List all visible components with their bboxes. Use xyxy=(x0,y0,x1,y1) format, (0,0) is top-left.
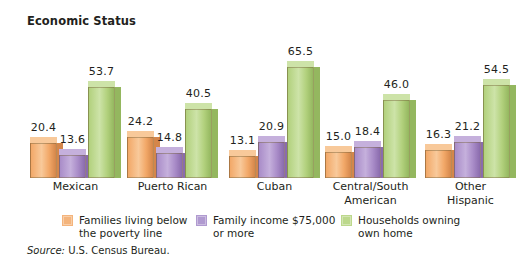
bar-side-face xyxy=(314,67,320,178)
bar-front-face xyxy=(325,152,352,178)
legend-label: Families living below the poverty line xyxy=(79,214,187,239)
bar: 54.5 xyxy=(483,85,510,178)
bar-front-face xyxy=(383,100,410,178)
bar-group: 24.214.840.5 xyxy=(127,36,218,178)
bar: 46.0 xyxy=(383,100,410,178)
bar-value-label: 14.8 xyxy=(157,131,182,144)
bar-value-label: 13.6 xyxy=(60,133,85,146)
plot-area: 20.413.653.724.214.840.513.120.965.515.0… xyxy=(0,36,519,178)
bar-front-face xyxy=(88,87,115,178)
economic-status-chart-figure: Economic Status 20.413.653.724.214.840.5… xyxy=(0,0,519,265)
bar-group: 16.321.254.5 xyxy=(425,36,516,178)
bar-value-label: 65.5 xyxy=(288,45,313,58)
legend-swatch-icon xyxy=(62,215,73,226)
bar: 15.0 xyxy=(325,152,352,178)
bar-value-label: 24.2 xyxy=(128,115,153,128)
bar: 14.8 xyxy=(156,153,183,178)
legend-swatch-icon xyxy=(196,215,207,226)
bar: 18.4 xyxy=(354,147,381,178)
bar-front-face xyxy=(229,156,256,178)
bar-value-label: 40.5 xyxy=(186,87,211,100)
bar-top-face xyxy=(287,61,314,67)
bar-value-label: 18.4 xyxy=(355,125,380,138)
bar-top-face xyxy=(156,147,183,153)
bar-value-label: 54.5 xyxy=(484,63,509,76)
source-note: Source: U.S. Census Bureau. xyxy=(27,245,170,256)
bar-value-label: 20.9 xyxy=(259,120,284,133)
bar-front-face xyxy=(483,85,510,178)
bar: 40.5 xyxy=(185,109,212,178)
bar-top-face xyxy=(127,131,154,137)
source-label: Source: xyxy=(27,245,65,256)
bar-value-label: 13.1 xyxy=(230,134,255,147)
bar: 20.9 xyxy=(258,142,285,178)
bar-front-face xyxy=(258,142,285,178)
bar-side-face xyxy=(510,85,516,178)
category-axis-labels: MexicanPuerto RicanCubanCentral/SouthAme… xyxy=(0,180,519,216)
legend-label: Family income $75,000 or more xyxy=(213,214,335,239)
legend-item[interactable]: Family income $75,000 or more xyxy=(196,214,335,239)
legend-swatch-icon xyxy=(341,215,352,226)
bar-front-face xyxy=(185,109,212,178)
bar: 13.6 xyxy=(59,155,86,178)
bar-front-face xyxy=(354,147,381,178)
bar-value-label: 46.0 xyxy=(384,78,409,91)
chart-legend: Families living below the poverty lineFa… xyxy=(0,214,519,244)
bar-group: 15.018.446.0 xyxy=(325,36,416,178)
bar-top-face xyxy=(258,136,285,142)
legend-item[interactable]: Families living below the poverty line xyxy=(62,214,187,239)
bar-front-face xyxy=(287,67,314,178)
chart-title: Economic Status xyxy=(27,14,136,28)
category-label: OtherHispanic xyxy=(405,180,519,207)
bar-top-face xyxy=(454,136,481,142)
bar-value-label: 53.7 xyxy=(89,65,114,78)
bar-top-face xyxy=(325,146,352,152)
source-text: U.S. Census Bureau. xyxy=(68,245,170,256)
bar-top-face xyxy=(425,144,452,150)
bar-value-label: 20.4 xyxy=(31,121,56,134)
bar-front-face xyxy=(156,153,183,178)
bar-value-label: 15.0 xyxy=(326,130,351,143)
legend-label: Households owning own home xyxy=(358,214,460,239)
bar-side-face xyxy=(410,100,416,178)
bar-top-face xyxy=(354,141,381,147)
bar-value-label: 21.2 xyxy=(455,120,480,133)
bar: 21.2 xyxy=(454,142,481,178)
bar: 16.3 xyxy=(425,150,452,178)
legend-item[interactable]: Households owning own home xyxy=(341,214,460,239)
bar-top-face xyxy=(30,137,57,143)
bar-top-face xyxy=(483,79,510,85)
bar-group: 20.413.653.7 xyxy=(30,36,121,178)
bar-top-face xyxy=(229,150,256,156)
bar: 24.2 xyxy=(127,137,154,178)
bar: 65.5 xyxy=(287,67,314,178)
bar-top-face xyxy=(383,94,410,100)
bar-top-face xyxy=(88,81,115,87)
bar-front-face xyxy=(30,143,57,178)
bar-front-face xyxy=(425,150,452,178)
bar-side-face xyxy=(212,109,218,178)
bar-side-face xyxy=(115,87,121,178)
bar-front-face xyxy=(59,155,86,178)
bar: 13.1 xyxy=(229,156,256,178)
bar-top-face xyxy=(185,103,212,109)
bar: 53.7 xyxy=(88,87,115,178)
bar-front-face xyxy=(454,142,481,178)
bar-front-face xyxy=(127,137,154,178)
bar-top-face xyxy=(59,149,86,155)
bar-group: 13.120.965.5 xyxy=(229,36,320,178)
bar-value-label: 16.3 xyxy=(426,128,451,141)
bar: 20.4 xyxy=(30,143,57,178)
